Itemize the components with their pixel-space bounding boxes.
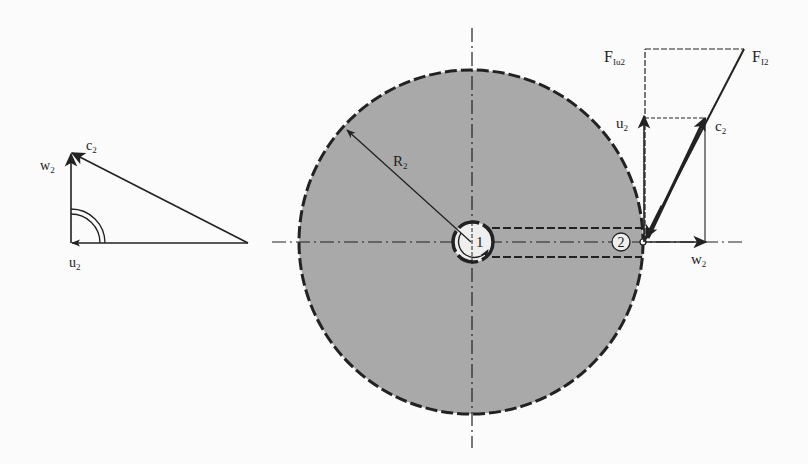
- inflow-arrow: [646, 206, 662, 238]
- rotor-disk: 1 R2 2: [272, 28, 745, 448]
- label-fi2: FI2: [752, 48, 768, 67]
- label-w2-right: w2: [691, 251, 706, 269]
- point-2-label: 2: [618, 235, 625, 250]
- label-u2-right: u2: [616, 115, 628, 133]
- c2-vector: [72, 153, 248, 243]
- label-c2-right: c2: [715, 118, 726, 136]
- label-w2-left: w2: [40, 158, 55, 175]
- left-velocity-triangle: c2 w2 u2: [40, 138, 248, 272]
- label-fiu2: FIu2: [604, 48, 625, 67]
- label-c2-left: c2: [86, 138, 97, 155]
- right-angle-arc-inner: [71, 214, 100, 243]
- label-u2-left: u2: [69, 255, 81, 272]
- diagram-canvas: c2 w2 u2 1 R2 2: [0, 0, 808, 464]
- velocity-diagram: c2 w2 u2 1 R2 2: [0, 0, 808, 464]
- hub-label: 1: [476, 234, 484, 250]
